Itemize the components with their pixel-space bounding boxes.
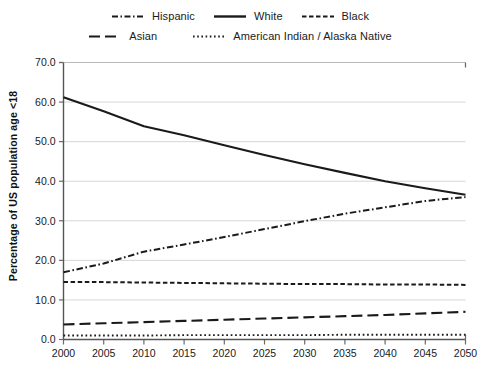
series-line-hispanic bbox=[64, 197, 466, 272]
gridlines bbox=[64, 102, 466, 300]
y-tick-label: 30.0 bbox=[35, 215, 56, 227]
x-tick-label: 2050 bbox=[454, 347, 478, 359]
x-tick-label: 2030 bbox=[293, 347, 317, 359]
plot-svg: 0.010.020.030.040.050.060.070.0 20002005… bbox=[0, 0, 480, 371]
x-tick-label: 2045 bbox=[414, 347, 438, 359]
y-tick-label: 0.0 bbox=[41, 333, 56, 345]
plot-area: 0.010.020.030.040.050.060.070.0 20002005… bbox=[0, 0, 480, 371]
y-tick-label: 60.0 bbox=[35, 96, 56, 108]
chart-figure: Hispanic White Black Asian bbox=[0, 0, 480, 371]
series-line-black bbox=[64, 282, 466, 285]
x-tick-label: 2035 bbox=[333, 347, 357, 359]
y-tick-label: 20.0 bbox=[35, 254, 56, 266]
x-axis-ticks bbox=[64, 340, 466, 345]
y-tick-label: 40.0 bbox=[35, 175, 56, 187]
x-tick-label: 2005 bbox=[92, 347, 116, 359]
axis-lines bbox=[59, 63, 466, 340]
series-line-asian bbox=[64, 312, 466, 325]
y-tick-label: 70.0 bbox=[35, 56, 56, 68]
x-tick-label: 2010 bbox=[132, 347, 156, 359]
x-tick-label: 2000 bbox=[52, 347, 76, 359]
x-tick-labels: 2000200520102015202020252030203520402045… bbox=[52, 347, 478, 359]
series-line-american-indian-alaska-native bbox=[64, 335, 466, 336]
x-tick-label: 2025 bbox=[253, 347, 277, 359]
x-tick-label: 2020 bbox=[213, 347, 237, 359]
y-tick-labels: 0.010.020.030.040.050.060.070.0 bbox=[35, 56, 56, 345]
series-line-white bbox=[64, 97, 466, 194]
x-tick-label: 2015 bbox=[172, 347, 196, 359]
y-tick-label: 50.0 bbox=[35, 135, 56, 147]
x-tick-label: 2040 bbox=[373, 347, 397, 359]
y-tick-label: 10.0 bbox=[35, 294, 56, 306]
